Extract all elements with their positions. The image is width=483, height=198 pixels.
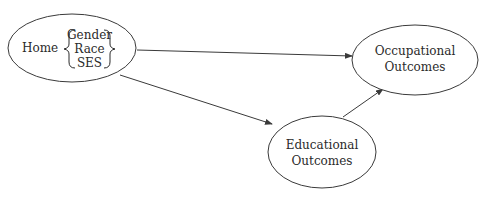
home-sublabel-race: Race — [74, 42, 104, 56]
home-label: Home — [22, 41, 58, 55]
home-sublabel-gender: Gender — [67, 28, 112, 42]
occupational-label-line1: Occupational — [375, 44, 456, 58]
node-occupational-outcomes: Occupational Outcomes — [352, 25, 478, 95]
educational-ellipse — [268, 116, 376, 188]
occupational-label-line2: Outcomes — [385, 60, 446, 74]
node-educational-outcomes: Educational Outcomes — [268, 116, 376, 188]
edge-home-to-educational — [120, 75, 272, 124]
node-home: Home Gender Race SES — [8, 14, 136, 82]
edge-educational-to-occupational — [343, 89, 383, 117]
educational-label-line1: Educational — [286, 138, 359, 152]
home-sublabel-ses: SES — [77, 56, 102, 70]
educational-label-line2: Outcomes — [292, 154, 353, 168]
path-diagram: Home Gender Race SES Occupational Outcom… — [0, 0, 483, 198]
edge-home-to-occupational — [137, 50, 352, 56]
